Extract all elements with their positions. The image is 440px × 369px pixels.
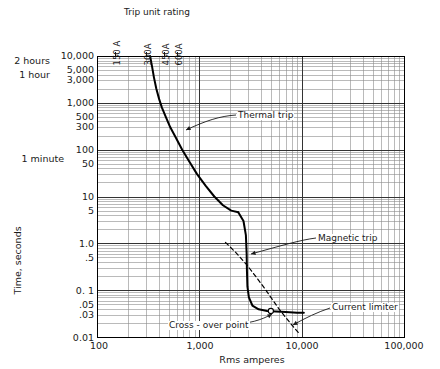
y-tick-300: 300 [32, 122, 94, 132]
trip-rating-300a-label: 300A [144, 43, 153, 65]
y-axis-title: Time, seconds [13, 226, 23, 294]
x-tick-100: 100 [90, 341, 108, 351]
y-tick-0_5: .5 [32, 253, 94, 263]
x-tick-1000: 1,000 [186, 341, 213, 351]
annotation-crossover-point: Cross - over point [168, 321, 250, 330]
annotation-current-limiter: Current limiter [331, 303, 399, 312]
annotation-magnetic-trip: Magnetic trip [317, 234, 379, 243]
time-equivalent-1-minute: 1 minute [2, 154, 64, 164]
time-equivalent-2-hours: 2 hours [2, 56, 50, 66]
y-tick-5: 5 [32, 206, 94, 216]
trip-rating-600a-label: 600A [175, 43, 184, 65]
y-tick-1: 1.0 [32, 239, 94, 249]
x-tick-100000: 100,000 [384, 341, 423, 351]
top-axis-title: Trip unit rating [124, 8, 190, 17]
time-equivalent-1-hour: 1 hour [2, 70, 50, 80]
y-tick-0_03: .03 [32, 310, 94, 320]
y-tick-10: 10 [32, 192, 94, 202]
curve-thermal-trip [150, 56, 238, 212]
grid-minor-lines [97, 56, 404, 337]
crossover-point-marker [268, 308, 273, 313]
annotation-thermal-trip: Thermal trip [237, 111, 294, 120]
x-tick-10000: 10,000 [285, 341, 318, 351]
curve-group [150, 56, 304, 333]
y-tick-1000: 1,000 [32, 98, 94, 108]
trip-rating-450a-label: 450A [162, 43, 171, 65]
time-current-curve-figure: Trip unit rating 150 A 300A 450A 600A 10… [0, 0, 440, 369]
trip-rating-150a-label: 150 A [113, 41, 122, 66]
y-tick-0_1: 0. 1 [32, 286, 94, 296]
y-tick-0_01: 0.01 [30, 333, 94, 343]
annotation-leader-lines [186, 115, 330, 325]
x-axis-title: Rms amperes [219, 355, 284, 365]
plot-frame [98, 52, 405, 338]
